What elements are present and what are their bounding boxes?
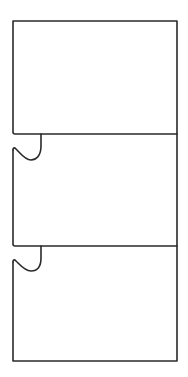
connector-2-hook (13, 246, 41, 271)
panel-1-outline (13, 21, 177, 134)
panel-3 (13, 246, 177, 361)
connector-1 (13, 134, 41, 160)
panel-3-outline (13, 246, 177, 361)
panel-2 (13, 134, 177, 246)
connector-2 (13, 246, 41, 271)
connector-1-hook (13, 134, 41, 160)
stacked-panels-diagram (0, 0, 188, 377)
panel-2-outline (13, 134, 177, 246)
diagram-canvas (0, 0, 188, 377)
panel-1 (13, 21, 177, 134)
